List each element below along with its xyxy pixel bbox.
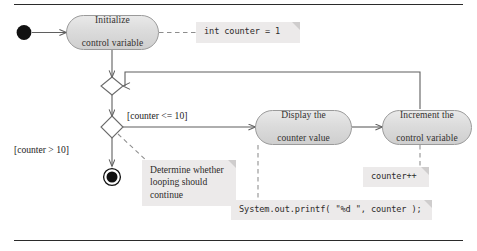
merge-diamond-shape (101, 77, 123, 95)
note-printf-code: System.out.printf( "%d ", counter ); (231, 200, 432, 220)
edge-loopback-arrowhead (123, 83, 130, 90)
note-decision-line2: looping should (150, 176, 207, 187)
note-decision-line3: continue (150, 189, 183, 200)
action-initialize-line2: control variable (76, 38, 149, 50)
action-increment-control-variable[interactable]: Increment the control variable (382, 110, 472, 145)
note-init-code: int counter = 1 (196, 22, 300, 43)
note-init-code-text: int counter = 1 (204, 26, 280, 36)
note-decision-line1: Determine whether (150, 164, 224, 175)
action-increment-label: Increment the control variable (384, 110, 469, 145)
note-fold-icon (424, 200, 432, 208)
action-initialize-control-variable[interactable]: Initialize control variable (66, 15, 159, 50)
activity-diagram-canvas: Initialize control variable Display the … (0, 0, 477, 251)
action-display-line1: Display the (271, 110, 336, 122)
decision-diamond-shape (101, 116, 123, 138)
note-fold-icon (228, 160, 236, 168)
note-fold-icon (292, 22, 300, 30)
final-node-inner-dot (107, 172, 118, 183)
action-initialize-line1: Initialize (76, 15, 149, 27)
initial-node-shape (17, 25, 32, 40)
note-fold-icon (421, 167, 429, 175)
note-increment-code: counter++ (363, 167, 429, 187)
note-decision-prose: Determine whether looping should continu… (142, 160, 236, 206)
action-display-line2: counter value (271, 133, 336, 145)
edge-increment-loopback-to-merge (125, 72, 420, 109)
note-increment-code-text: counter++ (371, 171, 417, 181)
action-display-label: Display the counter value (265, 110, 342, 145)
action-increment-line2: control variable (390, 133, 463, 145)
guard-loop-exit: [counter > 10] (14, 144, 69, 155)
note-printf-code-text: System.out.printf( "%d ", counter ); (239, 204, 422, 214)
action-initialize-label: Initialize control variable (70, 15, 155, 50)
guard-loop-continue: [counter <= 10] (127, 110, 187, 121)
action-display-counter-value[interactable]: Display the counter value (255, 110, 352, 145)
action-increment-line1: Increment the (390, 110, 463, 122)
anchor-decision-to-prose-note (118, 134, 148, 162)
